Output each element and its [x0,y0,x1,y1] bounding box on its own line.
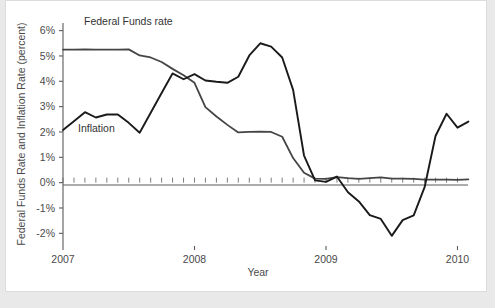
y-tick-label: 3% [40,100,55,112]
line-chart: 6%5%4%3%2%1%0%-1%-2% 2007200820092010 Fe… [6,1,486,291]
x-axis-title: Year [247,266,269,278]
chart-card: 6%5%4%3%2%1%0%-1%-2% 2007200820092010 Fe… [5,0,487,292]
y-tick-label: -2% [36,227,55,239]
y-tick-label: 5% [40,50,55,62]
x-tick-label-group: 2007200820092010 [51,246,469,265]
series-label-federal-funds-rate: Federal Funds rate [84,15,173,27]
y-tick-label: 0% [40,176,55,188]
y-tick-group [59,31,63,234]
series-label-inflation: Inflation [78,122,115,134]
x-tick-label: 2007 [51,253,75,265]
y-tick-label: -1% [36,202,55,214]
y-tick-label: 4% [40,75,55,87]
y-tick-label: 6% [40,24,55,36]
x-tick-label: 2009 [314,253,338,265]
series-line-federal-funds-rate [63,49,468,180]
series-line-inflation [63,43,468,236]
x-tick-label: 2008 [183,253,207,265]
chart-page: 6%5%4%3%2%1%0%-1%-2% 2007200820092010 Fe… [0,0,495,308]
y-tick-label-group: 6%5%4%3%2%1%0%-1%-2% [36,24,55,239]
y-tick-label: 1% [40,151,55,163]
y-tick-label: 2% [40,126,55,138]
x-tick-label: 2010 [446,253,470,265]
y-axis-title: Federal Funds Rate and Inflation Rate (p… [15,23,27,246]
